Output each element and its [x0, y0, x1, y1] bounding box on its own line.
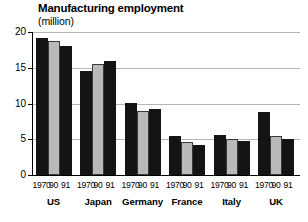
plot-area [33, 32, 300, 175]
gridline-20 [33, 32, 300, 33]
bar-us-1970 [36, 38, 48, 175]
y-tick-label-15: 15 [0, 63, 26, 73]
x-group-label-uk: UK [246, 197, 306, 207]
bar-germany-1970 [125, 103, 137, 175]
bar-japan-1970 [80, 71, 92, 175]
chart-subtitle-units: (million) [38, 15, 298, 27]
bar-uk-1970 [258, 112, 270, 175]
bar-us-90 [48, 41, 60, 175]
bar-germany-90 [137, 111, 149, 175]
y-tick-mark-0 [28, 175, 32, 176]
gridline-10 [33, 104, 300, 105]
bar-japan-90 [92, 64, 104, 175]
y-tick-label-0: 0 [0, 170, 26, 180]
bar-france-90 [181, 142, 193, 175]
y-tick-mark-20 [28, 32, 32, 33]
bar-germany-91 [149, 109, 161, 175]
y-tick-mark-10 [28, 104, 32, 105]
bar-uk-90 [270, 136, 282, 175]
x-year-label-uk-91: 91 [274, 181, 302, 190]
y-tick-label-20: 20 [0, 27, 26, 37]
gridline-0 [33, 175, 300, 176]
y-tick-label-5: 5 [0, 134, 26, 144]
bar-italy-91 [238, 141, 250, 175]
bar-uk-91 [282, 139, 294, 175]
gridline-15 [33, 68, 300, 69]
bar-us-91 [60, 46, 72, 175]
chart-title-block: Manufacturing employment (million) [38, 2, 298, 27]
y-tick-mark-15 [28, 68, 32, 69]
y-tick-label-10: 10 [0, 99, 26, 109]
chart-title: Manufacturing employment [38, 2, 298, 15]
bar-france-91 [193, 145, 205, 175]
bar-france-1970 [169, 136, 181, 175]
bar-japan-91 [104, 61, 116, 175]
bar-italy-1970 [214, 135, 226, 175]
bar-italy-90 [226, 139, 238, 175]
manufacturing-employment-bar-chart: Manufacturing employment (million) 05101… [0, 0, 308, 222]
y-tick-mark-5 [28, 139, 32, 140]
